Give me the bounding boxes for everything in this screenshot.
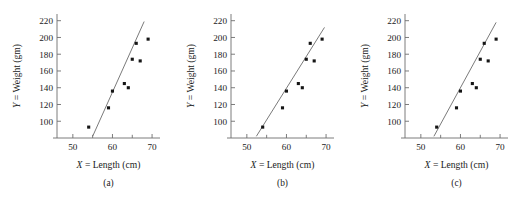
panel-caption-b: (b)	[277, 178, 288, 189]
y-tick-label-b: 120	[213, 100, 227, 110]
data-point-b	[297, 82, 300, 85]
data-point-b	[321, 38, 324, 41]
three-panel-scatter-figure: 220200180160140120100506070X = Length (c…	[0, 0, 522, 199]
data-point-c	[487, 59, 490, 62]
plot-area-c: 220200180160140120100506070X = Length (c…	[359, 14, 508, 189]
data-point-b	[301, 86, 304, 89]
y-tick-label-a: 200	[39, 33, 53, 43]
x-axis-title-c: X = Length (cm)	[424, 159, 489, 171]
y-tick-label-a: 100	[39, 117, 53, 127]
y-tick-label-b: 160	[213, 66, 227, 76]
x-axis-title-b: X = Length (cm)	[250, 159, 315, 171]
data-point-a	[139, 59, 142, 62]
y-tick-label-c: 200	[387, 33, 401, 43]
y-tick-label-c: 220	[387, 16, 401, 26]
y-axis-title-b: Y = Weight (gm)	[185, 44, 197, 108]
panel-caption-c: (c)	[451, 178, 461, 189]
x-tick-label-b: 70	[321, 142, 331, 152]
fitted-line-b	[256, 27, 324, 136]
scatter-plot-b: 220200180160140120100506070X = Length (c…	[174, 0, 348, 199]
data-point-c	[479, 58, 482, 61]
y-tick-label-c: 100	[387, 117, 401, 127]
data-point-c	[455, 106, 458, 109]
data-point-b	[281, 106, 284, 109]
y-tick-label-b: 140	[213, 83, 227, 93]
x-tick-label-c: 50	[416, 142, 426, 152]
x-tick-label-b: 60	[282, 142, 292, 152]
data-point-a	[127, 86, 130, 89]
data-point-a	[111, 90, 114, 93]
y-tick-label-a: 140	[39, 83, 53, 93]
data-point-a	[147, 38, 150, 41]
y-tick-label-a: 180	[39, 50, 53, 60]
data-point-c	[435, 126, 438, 129]
data-point-c	[495, 38, 498, 41]
panel-caption-a: (a)	[103, 178, 113, 189]
data-point-c	[459, 90, 462, 93]
panel-b: 220200180160140120100506070X = Length (c…	[174, 0, 348, 199]
y-tick-label-b: 180	[213, 50, 227, 60]
y-axis-title-a: Y = Weight (gm)	[11, 44, 23, 108]
y-tick-label-b: 220	[213, 16, 227, 26]
data-point-a	[87, 126, 90, 129]
y-tick-label-c: 160	[387, 66, 401, 76]
data-point-a	[135, 42, 138, 45]
x-tick-label-a: 70	[147, 142, 157, 152]
y-tick-label-b: 100	[213, 117, 227, 127]
x-tick-label-a: 60	[108, 142, 118, 152]
scatter-plot-a: 220200180160140120100506070X = Length (c…	[0, 0, 174, 199]
scatter-plot-c: 220200180160140120100506070X = Length (c…	[348, 0, 522, 199]
data-point-b	[305, 58, 308, 61]
y-tick-label-a: 160	[39, 66, 53, 76]
y-axis-title-c: Y = Weight (gm)	[359, 44, 371, 108]
plot-area-a: 220200180160140120100506070X = Length (c…	[11, 14, 160, 189]
data-point-c	[475, 86, 478, 89]
data-point-a	[107, 106, 110, 109]
x-tick-label-c: 70	[495, 142, 505, 152]
data-point-b	[285, 90, 288, 93]
data-point-c	[483, 42, 486, 45]
y-tick-label-c: 120	[387, 100, 401, 110]
y-tick-label-b: 200	[213, 33, 227, 43]
data-point-a	[123, 82, 126, 85]
data-point-a	[131, 58, 134, 61]
y-tick-label-a: 220	[39, 16, 53, 26]
panel-a: 220200180160140120100506070X = Length (c…	[0, 0, 174, 199]
y-tick-label-c: 140	[387, 83, 401, 93]
panel-c: 220200180160140120100506070X = Length (c…	[348, 0, 522, 199]
data-point-c	[471, 82, 474, 85]
x-tick-label-a: 50	[68, 142, 78, 152]
x-tick-label-c: 60	[456, 142, 466, 152]
y-tick-label-c: 180	[387, 50, 401, 60]
fitted-line-c	[434, 22, 496, 136]
data-point-b	[309, 42, 312, 45]
x-axis-title-a: X = Length (cm)	[76, 159, 141, 171]
y-tick-label-a: 120	[39, 100, 53, 110]
data-point-b	[261, 126, 264, 129]
x-tick-label-b: 50	[242, 142, 252, 152]
data-point-b	[313, 59, 316, 62]
plot-area-b: 220200180160140120100506070X = Length (c…	[185, 14, 334, 189]
fitted-line-a	[93, 22, 144, 137]
